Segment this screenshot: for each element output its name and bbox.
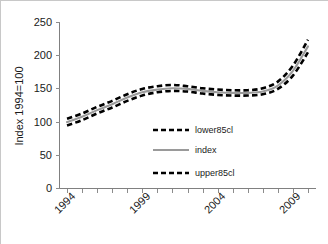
legend-label-upper85cl: upper85cl	[195, 168, 235, 178]
line-chart: 250 200 150 100 50 0 Index 1994=100 1994…	[1, 1, 328, 244]
y-tick-label: 0	[46, 182, 52, 194]
chart-figure: 250 200 150 100 50 0 Index 1994=100 1994…	[0, 0, 328, 244]
legend-label-index: index	[195, 145, 217, 155]
y-tick-label: 250	[34, 16, 52, 28]
y-tick-label: 50	[40, 149, 52, 161]
legend-label-lower85cl: lower85cl	[195, 125, 233, 135]
y-tick-label: 200	[34, 49, 52, 61]
y-tick-label: 100	[34, 116, 52, 128]
y-tick-label: 150	[34, 82, 52, 94]
y-axis-title: Index 1994=100	[13, 66, 25, 145]
